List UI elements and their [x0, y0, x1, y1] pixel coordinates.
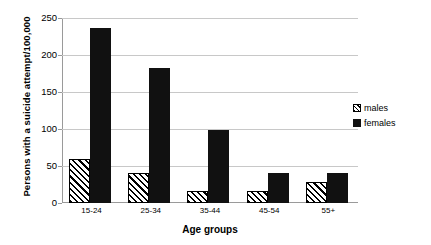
bar-males	[247, 191, 268, 203]
legend-item-females: females	[353, 116, 429, 129]
x-tick-label: 55+	[298, 206, 358, 216]
bar-group	[62, 18, 121, 203]
y-tick-label: 100	[31, 124, 57, 134]
bar-males	[306, 182, 327, 203]
bar-females	[208, 130, 229, 203]
bar-males	[69, 159, 90, 203]
y-tick-label: 50	[31, 161, 57, 171]
y-tick-label: 200	[31, 50, 57, 60]
x-tick-label: 15-24	[62, 206, 122, 216]
y-tick-label: 0	[31, 198, 57, 208]
bar-females	[149, 68, 170, 203]
bar-group	[240, 18, 299, 203]
bar-group	[180, 18, 239, 203]
x-tick-label: 45-54	[239, 206, 299, 216]
legend-label-males: males	[364, 103, 388, 113]
y-tick-label: 150	[31, 87, 57, 97]
bar-group	[299, 18, 358, 203]
chart-legend: males females	[353, 101, 429, 131]
y-tick-label: 250	[31, 13, 57, 23]
bars-layer	[62, 18, 358, 203]
bar-males	[187, 191, 208, 203]
x-axis-title: Age groups	[62, 224, 358, 235]
bar-males	[128, 173, 149, 203]
legend-item-males: males	[353, 101, 429, 114]
bar-chart: Persons with a suicide attempt/100,000 0…	[0, 0, 431, 245]
legend-swatch-males-icon	[353, 104, 361, 112]
y-tick-mark	[58, 203, 62, 204]
x-tick-label: 35-44	[180, 206, 240, 216]
x-tick-label: 25-34	[121, 206, 181, 216]
bar-females	[268, 173, 289, 203]
bar-females	[90, 28, 111, 203]
bar-group	[121, 18, 180, 203]
bar-females	[327, 173, 348, 203]
legend-label-females: females	[364, 118, 396, 128]
legend-swatch-females-icon	[353, 119, 361, 127]
y-axis-title: Persons with a suicide attempt/100,000	[21, 7, 32, 207]
